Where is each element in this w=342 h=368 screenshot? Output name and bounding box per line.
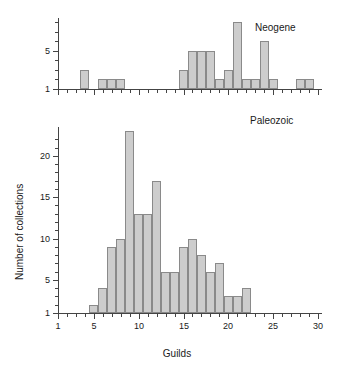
x-axis-major-tick	[58, 90, 59, 95]
panel-neogene-title: Neogene	[255, 22, 296, 33]
x-axis-minor-tick	[157, 90, 158, 93]
x-axis-major-tick	[139, 90, 140, 95]
histogram-bar	[197, 255, 206, 313]
x-axis-minor-tick	[76, 90, 77, 93]
x-axis-major-tick	[228, 90, 229, 95]
x-axis-major-tick	[184, 90, 185, 95]
x-axis-minor-tick	[112, 90, 113, 93]
x-axis-minor-tick	[291, 314, 292, 317]
histogram-bar	[188, 239, 197, 313]
y-axis-label: Number of collections	[14, 184, 25, 280]
y-axis-minor-tick	[55, 148, 58, 149]
y-axis-minor-tick	[55, 205, 58, 206]
histogram-bar	[242, 288, 251, 313]
x-axis-minor-tick	[255, 314, 256, 317]
x-axis-major-tick	[58, 314, 59, 319]
x-axis-major-tick	[139, 314, 140, 319]
x-axis-major-tick	[318, 314, 319, 319]
x-axis-minor-tick	[175, 314, 176, 317]
histogram-bar	[134, 214, 143, 313]
y-axis-tick-label: 1	[24, 309, 50, 318]
x-axis-minor-tick	[201, 90, 202, 93]
x-axis-major-tick	[318, 90, 319, 95]
panel-neogene: Neogene 15	[0, 0, 342, 110]
histogram-bar	[242, 79, 251, 89]
y-axis-tick-label: 20	[24, 152, 50, 161]
x-axis-minor-tick	[255, 90, 256, 93]
y-axis-minor-tick	[55, 296, 58, 297]
histogram-bar	[116, 79, 125, 89]
x-axis-minor-tick	[148, 314, 149, 317]
x-axis-minor-tick	[192, 314, 193, 317]
y-axis-tick-label: 15	[24, 193, 50, 202]
histogram-figure: Neogene 15 Paleozoic 1510152015101520253…	[0, 0, 342, 368]
x-axis-minor-tick	[291, 90, 292, 93]
y-axis-minor-tick	[55, 181, 58, 182]
y-axis-minor-tick	[55, 164, 58, 165]
x-axis-tick-label: 5	[79, 322, 109, 331]
y-axis-minor-tick	[55, 139, 58, 140]
y-axis-tick-label: 5	[24, 47, 50, 56]
y-axis-tick-label: 10	[24, 235, 50, 244]
y-axis-minor-tick	[55, 60, 58, 61]
x-axis-tick-label: 20	[213, 322, 243, 331]
x-axis-major-tick	[273, 314, 274, 319]
x-axis-minor-tick	[76, 314, 77, 317]
x-axis-minor-tick	[210, 90, 211, 93]
x-axis-minor-tick	[85, 90, 86, 93]
y-axis-minor-tick	[55, 272, 58, 273]
x-axis-minor-tick	[300, 314, 301, 317]
histogram-bar	[125, 131, 134, 313]
x-axis-major-tick	[94, 314, 95, 319]
histogram-bar	[215, 263, 224, 313]
y-axis-minor-tick	[55, 41, 58, 42]
histogram-bar	[224, 296, 233, 313]
x-axis-minor-tick	[201, 314, 202, 317]
x-axis-minor-tick	[219, 90, 220, 93]
x-axis-major-tick	[228, 314, 229, 319]
y-axis-major-tick	[53, 280, 58, 281]
y-axis-minor-tick	[55, 22, 58, 23]
histogram-bar	[188, 51, 197, 89]
x-axis-major-tick	[94, 90, 95, 95]
x-axis-minor-tick	[103, 90, 104, 93]
y-axis-minor-tick	[55, 263, 58, 264]
x-axis-minor-tick	[130, 90, 131, 93]
histogram-bar	[251, 79, 260, 89]
histogram-bar	[152, 181, 161, 313]
x-axis-minor-tick	[282, 90, 283, 93]
y-axis-minor-tick	[55, 305, 58, 306]
histogram-bar	[296, 79, 305, 89]
x-axis-minor-tick	[210, 314, 211, 317]
y-axis-major-tick	[53, 156, 58, 157]
histogram-bar	[179, 247, 188, 313]
x-axis-minor-tick	[282, 314, 283, 317]
x-axis-minor-tick	[246, 314, 247, 317]
y-axis-major-tick	[53, 51, 58, 52]
histogram-bar	[161, 272, 170, 313]
x-axis-minor-tick	[67, 314, 68, 317]
y-axis-minor-tick	[55, 32, 58, 33]
x-axis-tick-label: 1	[43, 322, 73, 331]
histogram-bar	[260, 41, 269, 89]
x-axis-minor-tick	[67, 90, 68, 93]
y-axis-major-tick	[53, 197, 58, 198]
panel-paleozoic-title: Paleozoic	[250, 115, 293, 126]
y-axis-minor-tick	[55, 230, 58, 231]
x-axis-minor-tick	[300, 90, 301, 93]
y-axis-line	[58, 127, 59, 314]
panel-paleozoic: Paleozoic 15101520151015202530	[0, 110, 342, 345]
x-axis-minor-tick	[264, 314, 265, 317]
y-axis-minor-tick	[55, 189, 58, 190]
x-axis-minor-tick	[192, 90, 193, 93]
histogram-bar	[269, 79, 278, 89]
histogram-bar	[170, 272, 179, 313]
histogram-bar	[206, 51, 215, 89]
histogram-bar	[305, 79, 314, 89]
histogram-bar	[179, 70, 188, 89]
y-axis-line	[58, 18, 59, 90]
y-axis-minor-tick	[55, 214, 58, 215]
x-axis-minor-tick	[166, 314, 167, 317]
y-axis-minor-tick	[55, 79, 58, 80]
x-axis-tick-label: 15	[169, 322, 199, 331]
